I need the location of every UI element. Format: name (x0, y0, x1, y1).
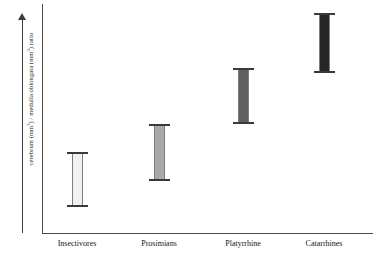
range-bar (233, 68, 254, 124)
range-bar-stem (238, 68, 249, 124)
x-axis-category-label: Catarrhines (306, 239, 343, 248)
range-bar (149, 124, 170, 181)
plot-area (0, 0, 377, 233)
range-bar-cap-upper (149, 124, 170, 126)
range-bar-cap-upper (314, 13, 335, 15)
range-bar-stem (72, 152, 83, 207)
range-bar-stem (154, 124, 165, 181)
range-bar-cap-upper (67, 152, 88, 154)
range-bar (314, 13, 335, 73)
range-bar-cap-lower (233, 122, 254, 124)
chart-figure: cerebrum (mm3) / medulla oblongata (mm3)… (0, 0, 377, 259)
range-bar-cap-lower (314, 71, 335, 73)
range-bar-cap-lower (67, 205, 88, 207)
range-bar-cap-upper (233, 68, 254, 70)
range-bar-stem (319, 13, 330, 73)
x-axis-category-label: Insectivores (58, 239, 97, 248)
range-bar-cap-lower (149, 179, 170, 181)
x-axis-line (42, 233, 373, 234)
x-axis-category-label: Platyrrhine (225, 239, 261, 248)
x-axis-category-label: Prosimians (141, 239, 177, 248)
range-bar (67, 152, 88, 207)
